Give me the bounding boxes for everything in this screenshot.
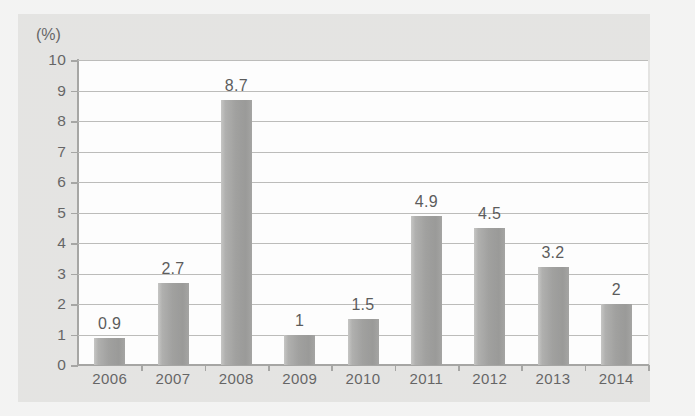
x-axis-tick (648, 365, 650, 371)
y-axis-tick (71, 213, 78, 215)
bar (158, 283, 189, 365)
bar-value-label: 4.9 (396, 193, 456, 211)
x-axis-category-label: 2006 (79, 370, 141, 387)
y-axis-tick (71, 335, 78, 337)
y-axis-tick-label: 5 (32, 204, 66, 222)
y-axis-tick-label: 7 (32, 143, 66, 161)
y-axis-tick-label: 4 (32, 234, 66, 252)
bar-value-label: 0.9 (80, 315, 140, 333)
y-axis-tick (71, 274, 78, 276)
bar-value-label: 1.5 (333, 296, 393, 314)
y-axis-tick (71, 91, 78, 93)
bar (601, 304, 632, 365)
chart-page: (%) 012345678910 0.92.78.711.54.94.53.22… (0, 0, 695, 416)
bar-value-label: 8.7 (206, 77, 266, 95)
bar (348, 319, 379, 365)
y-axis-tick-label: 10 (32, 51, 66, 69)
bar (284, 335, 315, 366)
gridline (78, 182, 648, 183)
x-axis-category-label: 2012 (459, 370, 521, 387)
bar (538, 267, 569, 365)
bar-value-label: 2 (586, 281, 646, 299)
x-axis-category-label: 2014 (585, 370, 647, 387)
x-axis-category-label: 2007 (142, 370, 204, 387)
y-axis-tick (71, 304, 78, 306)
y-axis-tick-label: 2 (32, 295, 66, 313)
y-axis-tick (71, 152, 78, 154)
y-axis-unit-label: (%) (36, 26, 61, 44)
x-axis-category-label: 2011 (395, 370, 457, 387)
x-axis-category-label: 2013 (522, 370, 584, 387)
gridline (78, 91, 648, 92)
bar (474, 228, 505, 365)
bar (221, 100, 252, 365)
x-axis-category-label: 2009 (269, 370, 331, 387)
bar-value-label: 1 (270, 312, 330, 330)
bar-value-label: 2.7 (143, 260, 203, 278)
bar (94, 338, 125, 365)
y-axis-tick-label: 1 (32, 326, 66, 344)
y-axis-tick (71, 182, 78, 184)
chart-panel: (%) 012345678910 0.92.78.711.54.94.53.22… (18, 14, 650, 402)
y-axis-tick (71, 60, 78, 62)
y-axis-tick-label: 8 (32, 112, 66, 130)
gridline (78, 60, 648, 61)
bar-value-label: 3.2 (523, 244, 583, 262)
y-axis-tick-label: 3 (32, 265, 66, 283)
x-axis-category-label: 2010 (332, 370, 394, 387)
y-axis-tick-label: 6 (32, 173, 66, 191)
bar-value-label: 4.5 (460, 205, 520, 223)
gridline (78, 121, 648, 122)
y-axis-tick (71, 365, 78, 367)
y-axis-tick (71, 243, 78, 245)
bar (411, 216, 442, 365)
gridline (78, 152, 648, 153)
y-axis-tick-label: 9 (32, 82, 66, 100)
y-axis-tick-label: 0 (32, 356, 66, 374)
gridline (78, 213, 648, 214)
x-axis-category-label: 2008 (205, 370, 267, 387)
y-axis-tick (71, 121, 78, 123)
